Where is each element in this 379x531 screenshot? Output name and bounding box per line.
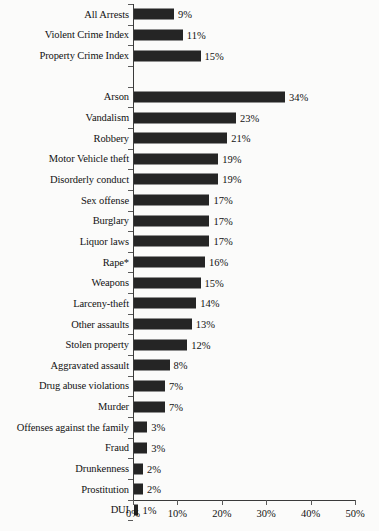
bar-value-label: 7% (169, 380, 183, 391)
bar-group: 9% (134, 9, 192, 20)
bar-value-label: 8% (174, 360, 188, 371)
category-label: Disorderly conduct (0, 174, 129, 185)
bar-value-label: 17% (213, 215, 232, 226)
bar (134, 298, 196, 309)
category-label: Drunkenness (0, 463, 129, 474)
bar-group: 34% (134, 91, 308, 102)
chart-row: Liquor laws17% (0, 231, 379, 252)
bar (134, 484, 143, 495)
bar-value-label: 2% (147, 484, 161, 495)
bar-group: 21% (134, 133, 250, 144)
bar (134, 9, 174, 20)
bar-group: 11% (134, 29, 206, 40)
bar-value-label: 13% (196, 319, 215, 330)
category-label: Stolen property (0, 339, 129, 350)
x-axis-line (133, 500, 355, 501)
bar-group: 19% (134, 153, 242, 164)
chart-row: Disorderly conduct19% (0, 169, 379, 190)
bar-value-label: 34% (289, 91, 308, 102)
chart-row: Weapons15% (0, 272, 379, 293)
bar-group: 2% (134, 484, 161, 495)
chart-row: Sex offense17% (0, 190, 379, 211)
category-label: Murder (0, 401, 129, 412)
bar (134, 442, 147, 453)
category-label: All Arrests (0, 9, 129, 20)
category-label: Burglary (0, 215, 129, 226)
bar-group: 8% (134, 360, 188, 371)
category-label: Rape* (0, 257, 129, 268)
bar (134, 360, 170, 371)
chart-row: Violent Crime Index11% (0, 25, 379, 46)
x-axis-tick-label: 0% (113, 508, 153, 520)
category-label: Vandalism (0, 112, 129, 123)
x-axis-tick-label: 30% (246, 508, 286, 520)
chart-row: Motor Vehicle theft19% (0, 149, 379, 170)
chart-row: Rape*16% (0, 252, 379, 273)
x-axis-tick-label: 10% (157, 508, 197, 520)
bar-value-label: 15% (205, 50, 224, 61)
bar-value-label: 16% (209, 257, 228, 268)
category-label: Robbery (0, 133, 129, 144)
bar (134, 195, 209, 206)
category-label: Liquor laws (0, 236, 129, 247)
bar-group: 3% (134, 442, 165, 453)
bar-value-label: 19% (222, 153, 241, 164)
chart-row: Property Crime Index15% (0, 45, 379, 66)
x-axis-tick-label: 50% (335, 508, 375, 520)
plot-area: All Arrests9%Violent Crime Index11%Prope… (0, 0, 379, 531)
category-label: Sex offense (0, 195, 129, 206)
bar-value-label: 3% (151, 442, 165, 453)
bar-value-label: 9% (178, 9, 192, 20)
chart-row: Other assaults13% (0, 314, 379, 335)
category-label: Larceny-theft (0, 298, 129, 309)
chart-row: Fraud3% (0, 438, 379, 459)
chart-row: Prostitution2% (0, 479, 379, 500)
x-axis-tick (133, 500, 134, 505)
x-axis-tick (222, 500, 223, 505)
bar (134, 422, 147, 433)
y-axis-tick (128, 520, 133, 521)
bar (134, 339, 187, 350)
chart-row (0, 66, 379, 87)
chart-row: Drug abuse violations7% (0, 376, 379, 397)
bar (134, 174, 218, 185)
bar-group: 13% (134, 319, 215, 330)
bar-group: 15% (134, 50, 224, 61)
category-label: DUI (0, 504, 129, 515)
x-axis-tick (311, 500, 312, 505)
category-label: Fraud (0, 442, 129, 453)
x-axis-tick-label: 20% (202, 508, 242, 520)
bar (134, 50, 201, 61)
x-axis-tick-label: 40% (291, 508, 331, 520)
bar-chart-figure: All Arrests9%Violent Crime Index11%Prope… (0, 0, 379, 531)
chart-row: Murder7% (0, 396, 379, 417)
bar-group: 17% (134, 215, 233, 226)
x-axis-tick (177, 500, 178, 505)
chart-row: Vandalism23% (0, 107, 379, 128)
bar (134, 401, 165, 412)
category-label: Other assaults (0, 319, 129, 330)
bar (134, 215, 209, 226)
bar (134, 463, 143, 474)
bar-value-label: 2% (147, 463, 161, 474)
bar-group: 12% (134, 339, 211, 350)
bar (134, 153, 218, 164)
bar-group: 17% (134, 236, 233, 247)
bar (134, 277, 201, 288)
bar-value-label: 15% (205, 277, 224, 288)
category-label: Offenses against the family (0, 422, 129, 433)
category-label: Aggravated assault (0, 360, 129, 371)
chart-row: Offenses against the family3% (0, 417, 379, 438)
x-axis-tick (355, 500, 356, 505)
bar-group: 19% (134, 174, 242, 185)
bar (134, 29, 183, 40)
bar-group: 7% (134, 401, 183, 412)
bar-value-label: 12% (191, 339, 210, 350)
bar-value-label: 11% (187, 29, 206, 40)
bar (134, 91, 285, 102)
bar-value-label: 19% (222, 174, 241, 185)
bar (134, 236, 209, 247)
bar-group: 7% (134, 380, 183, 391)
bar (134, 319, 192, 330)
category-label: Violent Crime Index (0, 29, 129, 40)
